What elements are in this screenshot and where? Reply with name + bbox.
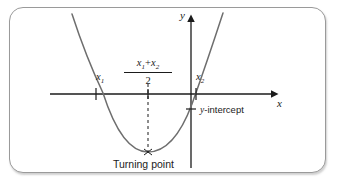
turning-point-label: Turning point bbox=[113, 158, 174, 170]
y-intercept-label: y-intercept bbox=[200, 104, 244, 115]
quadratic-graph-plot bbox=[0, 0, 337, 183]
fraction-num-x2-subscript: 2 bbox=[156, 63, 160, 71]
fraction-numerator: x1+x2 bbox=[124, 57, 172, 73]
axis-of-symmetry-fraction: x1+x2 2 bbox=[124, 57, 172, 87]
fraction-denominator: 2 bbox=[124, 73, 172, 87]
y-intercept-label-rest: -intercept bbox=[204, 104, 244, 115]
y-axis-label: y bbox=[180, 10, 185, 21]
root-x2-label: x2 bbox=[196, 72, 204, 85]
root-x1-subscript: 1 bbox=[101, 77, 105, 85]
x-axis-label: x bbox=[277, 98, 282, 109]
root-x2-subscript: 2 bbox=[201, 77, 205, 85]
root-x1-label: x1 bbox=[96, 72, 104, 85]
